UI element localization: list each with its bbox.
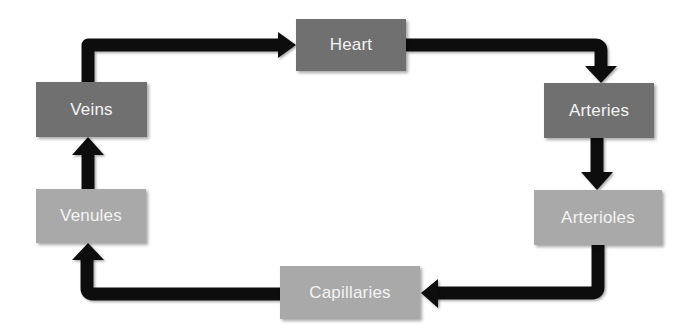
arrowhead-right-icon — [278, 32, 296, 58]
node-venules: Venules — [36, 189, 146, 243]
node-arteries-label: Arteries — [569, 101, 629, 121]
circulation-cycle-diagram: Heart Arteries Arterioles Capillaries Ve… — [0, 0, 700, 336]
node-capillaries-label: Capillaries — [309, 283, 391, 303]
arrowhead-up-icon — [72, 137, 104, 155]
arrowhead-up-icon — [72, 243, 104, 260]
node-arteries: Arteries — [544, 83, 654, 138]
node-arterioles-label: Arterioles — [561, 208, 635, 228]
node-venules-label: Venules — [60, 206, 122, 226]
arrow-capillaries-to-venules — [87, 258, 280, 294]
node-heart: Heart — [296, 19, 406, 71]
node-heart-label: Heart — [330, 35, 373, 55]
node-veins-label: Veins — [70, 100, 113, 120]
arrow-heart-to-arteries — [406, 45, 601, 68]
arrowhead-left-icon — [421, 279, 438, 308]
arrow-veins-to-heart — [88, 45, 280, 82]
arrow-arterioles-to-capillaries — [436, 245, 598, 293]
node-veins: Veins — [36, 82, 147, 137]
arrowhead-down-icon — [585, 66, 617, 83]
node-arterioles: Arterioles — [534, 190, 662, 245]
arrowhead-down-icon — [581, 172, 613, 190]
node-capillaries: Capillaries — [280, 266, 420, 319]
